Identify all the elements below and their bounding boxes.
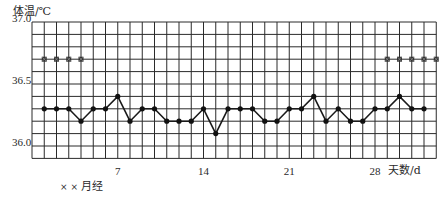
temperature-series xyxy=(42,94,427,136)
temperature-point xyxy=(91,106,96,111)
chart-grid xyxy=(32,22,436,158)
temperature-point xyxy=(250,106,255,111)
temperature-point xyxy=(127,119,132,124)
temperature-point xyxy=(189,119,194,124)
menses-marker xyxy=(385,57,390,62)
legend: × × 月经 xyxy=(60,181,103,193)
menses-marker xyxy=(79,57,84,62)
temperature-point xyxy=(311,94,316,99)
x-tick-label: 28 xyxy=(370,165,381,177)
temperature-point xyxy=(152,106,157,111)
temperature-point xyxy=(78,119,83,124)
temperature-point xyxy=(421,106,426,111)
temperature-point xyxy=(372,106,377,111)
menses-marker xyxy=(397,57,402,62)
temperature-point xyxy=(397,94,402,99)
temperature-point xyxy=(274,119,279,124)
temperature-point xyxy=(213,131,218,136)
x-tick-label: 21 xyxy=(284,165,295,177)
temperature-point xyxy=(336,106,341,111)
x-tick-label: 7 xyxy=(115,165,121,177)
temperature-point xyxy=(225,106,230,111)
temperature-point xyxy=(66,106,71,111)
menses-marker xyxy=(422,57,427,62)
temperature-point xyxy=(360,119,365,124)
temperature-point xyxy=(176,119,181,124)
legend-label: 月经 xyxy=(81,180,103,193)
temperature-point xyxy=(348,119,353,124)
temperature-point xyxy=(140,106,145,111)
temperature-point xyxy=(103,106,108,111)
bbt-chart xyxy=(0,0,448,203)
x-tick-label: 14 xyxy=(198,165,209,177)
temperature-point xyxy=(238,106,243,111)
menses-marker xyxy=(66,57,71,62)
temperature-point xyxy=(201,106,206,111)
temperature-point xyxy=(115,94,120,99)
temperature-point xyxy=(164,119,169,124)
temperature-point xyxy=(385,106,390,111)
temperature-point xyxy=(262,119,267,124)
temperature-point xyxy=(409,106,414,111)
menses-marker xyxy=(54,57,59,62)
y-tick-label: 36.0 xyxy=(12,136,31,148)
x-axis-title: 天数/d xyxy=(388,165,421,177)
y-tick-label: 37.0 xyxy=(12,12,31,24)
temperature-point xyxy=(287,106,292,111)
temperature-point xyxy=(323,119,328,124)
temperature-point xyxy=(42,106,47,111)
menses-marker xyxy=(434,57,439,62)
menses-marker xyxy=(409,57,414,62)
temperature-point xyxy=(54,106,59,111)
menses-marker xyxy=(42,57,47,62)
temperature-point xyxy=(299,106,304,111)
legend-symbol: × × xyxy=(60,182,78,192)
y-tick-label: 36.5 xyxy=(12,74,31,86)
